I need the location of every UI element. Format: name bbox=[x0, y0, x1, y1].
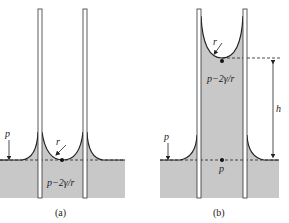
label-pressure-inside-b: p−2γ/r bbox=[206, 73, 234, 84]
label-p-bottom-b: p bbox=[218, 163, 224, 174]
panel-b: h p r p−2γ/r p (b) bbox=[160, 9, 281, 219]
tube-left-wall-b bbox=[197, 9, 201, 198]
label-r-b: r bbox=[213, 36, 217, 47]
point-bottom-b bbox=[220, 158, 224, 162]
label-r-a: r bbox=[56, 136, 60, 147]
tube-right-wall-b bbox=[243, 9, 247, 198]
caption-b: (b) bbox=[213, 207, 225, 219]
meniscus-inner-a bbox=[42, 132, 83, 160]
tube-right-wall-a bbox=[83, 9, 87, 198]
label-pressure-inside-a: p−2γ/r bbox=[46, 177, 74, 188]
label-h-b: h bbox=[276, 103, 281, 114]
label-p-b: p bbox=[163, 131, 169, 142]
point-a bbox=[60, 158, 64, 162]
point-top-b bbox=[220, 59, 224, 63]
label-p-a: p bbox=[4, 128, 10, 139]
panel-a: p r p−2γ/r (a) bbox=[0, 9, 125, 219]
meniscus-outer-right-a bbox=[87, 132, 125, 160]
meniscus-outer-left-a bbox=[8, 132, 38, 160]
capillary-figure: p r p−2γ/r (a) h p r p−2γ/r bbox=[0, 0, 289, 223]
caption-a: (a) bbox=[55, 207, 66, 219]
tube-left-wall-a bbox=[38, 9, 42, 198]
